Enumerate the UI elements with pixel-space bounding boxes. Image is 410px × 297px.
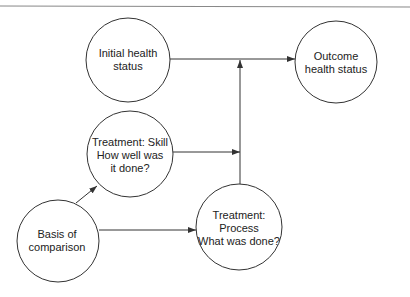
label-line: health status: [305, 63, 367, 76]
label-initial-health-status: Initial health status: [99, 47, 158, 73]
label-line: How well was: [92, 149, 168, 162]
label-line: Initial health: [99, 47, 158, 60]
label-line: Outcome: [305, 50, 367, 63]
edge-basis-to-skill: [76, 186, 97, 203]
label-line: What was done?: [198, 235, 280, 248]
label-treatment-process: Treatment: Process What was done?: [198, 209, 280, 248]
label-treatment-skill: Treatment: Skill How well was it done?: [92, 136, 168, 175]
label-line: comparison: [29, 241, 86, 254]
label-basis-of-comparison: Basis of comparison: [29, 228, 86, 254]
label-line: Basis of: [29, 228, 86, 241]
label-line: it done?: [92, 162, 168, 175]
label-line: status: [99, 60, 158, 73]
top-rule: [0, 6, 410, 7]
label-outcome-health-status: Outcome health status: [305, 50, 367, 76]
label-line: Treatment:: [198, 209, 280, 222]
label-line: Process: [198, 222, 280, 235]
label-line: Treatment: Skill: [92, 136, 168, 149]
